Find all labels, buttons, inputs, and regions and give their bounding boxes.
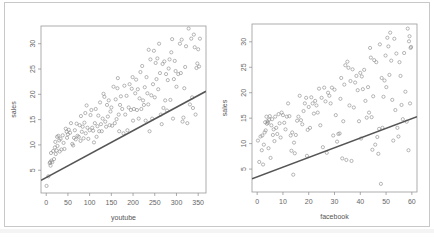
x-axis-title: facebook [320, 213, 349, 220]
data-point [178, 42, 181, 45]
data-point [80, 130, 83, 133]
data-point [390, 59, 393, 62]
data-point [392, 139, 395, 142]
data-point [104, 120, 107, 123]
data-point [107, 99, 110, 102]
data-point [271, 118, 274, 121]
data-point [112, 85, 115, 88]
y-axis-title: sales [221, 99, 228, 116]
data-point [184, 65, 187, 68]
data-point [132, 107, 135, 110]
data-point [118, 103, 121, 106]
data-point [268, 115, 271, 118]
data-point [158, 42, 161, 45]
data-point [130, 87, 133, 90]
data-point [171, 117, 174, 120]
data-point [155, 78, 158, 81]
data-point [75, 122, 78, 125]
scatter-panel-facebook: 010203040506051015202530facebooksales [221, 24, 417, 220]
data-point [81, 125, 84, 128]
data-point [143, 86, 146, 89]
data-point [105, 125, 108, 128]
x-tick-label: 350 [192, 199, 204, 206]
data-point [346, 60, 349, 63]
data-point [379, 182, 382, 185]
data-point [277, 113, 280, 116]
x-tick-label: 250 [149, 199, 161, 206]
data-point [385, 86, 388, 89]
data-point [154, 61, 157, 64]
data-point [69, 122, 72, 125]
data-point [196, 62, 199, 65]
data-point [298, 94, 301, 97]
data-point [281, 114, 284, 117]
data-point [172, 78, 175, 81]
data-point [163, 60, 166, 63]
data-point [261, 163, 264, 166]
data-point [141, 64, 144, 67]
data-point [317, 87, 320, 90]
data-point [267, 147, 270, 150]
data-point [147, 48, 150, 51]
data-point [396, 126, 399, 129]
data-point [342, 120, 345, 123]
data-point [170, 51, 173, 54]
data-point [129, 108, 132, 111]
data-point [395, 52, 398, 55]
data-point [314, 99, 317, 102]
data-point [197, 48, 200, 51]
data-point [388, 73, 391, 76]
data-point [294, 133, 297, 136]
data-point [83, 121, 86, 124]
data-point [98, 101, 101, 104]
data-point [351, 68, 354, 71]
y-tick-label: 25 [29, 65, 36, 73]
data-point [382, 95, 385, 98]
data-point [297, 115, 300, 118]
data-point [367, 111, 370, 114]
data-point [354, 81, 357, 84]
x-tick-label: 20 [305, 198, 313, 205]
data-point [397, 135, 400, 138]
data-point [377, 152, 380, 155]
data-point [139, 70, 142, 73]
data-point [63, 147, 66, 150]
y-axis: 51015202530 [240, 38, 252, 171]
data-point [182, 116, 185, 119]
data-point [137, 117, 140, 120]
data-point [54, 152, 57, 155]
data-point [62, 141, 65, 144]
data-point [271, 133, 274, 136]
data-point [383, 79, 386, 82]
data-point [119, 95, 122, 98]
y-axis: 51015202530 [29, 40, 41, 172]
data-point [142, 103, 145, 106]
data-point [123, 84, 126, 87]
data-point [352, 106, 355, 109]
x-tick-label: 0 [255, 198, 259, 205]
data-point [334, 114, 337, 117]
data-point [103, 95, 106, 98]
data-point [121, 107, 124, 110]
x-tick-label: 300 [171, 199, 183, 206]
data-point [315, 104, 318, 107]
data-point [166, 79, 169, 82]
data-point [316, 111, 319, 114]
data-point [162, 106, 165, 109]
y-tick-label: 20 [29, 90, 36, 98]
data-point [92, 141, 95, 144]
data-point [94, 107, 97, 110]
data-point [145, 76, 148, 79]
data-point [187, 27, 190, 30]
y-tick-label: 5 [240, 167, 247, 171]
data-point [198, 37, 201, 40]
data-point [303, 102, 306, 105]
data-point [115, 118, 118, 121]
data-point [265, 115, 268, 118]
data-point [389, 31, 392, 34]
data-point [293, 152, 296, 155]
data-point [45, 184, 48, 187]
data-point [78, 124, 81, 127]
data-point [92, 129, 95, 132]
data-point [329, 102, 332, 105]
